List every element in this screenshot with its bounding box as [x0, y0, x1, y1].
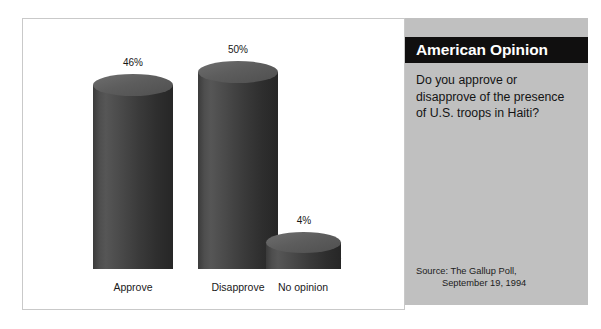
- panel-question: Do you approve or disapprove of the pres…: [416, 72, 584, 122]
- category-label-approve: Approve: [83, 281, 183, 293]
- question-line-2: disapprove of the presence: [416, 89, 584, 106]
- cylinder-top-ellipse: [93, 74, 173, 96]
- question-line-3: of U.S. troops in Haiti?: [416, 105, 584, 122]
- panel-title: American Opinion: [416, 37, 548, 63]
- panel-title-bar: American Opinion: [405, 37, 588, 63]
- question-line-1: Do you approve or: [416, 72, 584, 89]
- bar-group-approve: 46%: [93, 74, 173, 269]
- bar-value-label: 50%: [188, 44, 288, 55]
- bar-value-label: 46%: [83, 57, 183, 68]
- american-opinion-panel: American Opinion Do you approve or disap…: [405, 18, 588, 305]
- cylinder-top-ellipse: [266, 232, 341, 253]
- cylinder-approve: [93, 74, 173, 269]
- source-line-1: Source: The Gallup Poll,: [416, 265, 586, 277]
- source-line-2: September 19, 1994: [416, 277, 586, 289]
- chart-plot-area: 46% Approve 50% Disapprove 4%: [22, 18, 405, 310]
- bar-group-no-opinion: 4%: [266, 232, 341, 269]
- cylinder-body: [93, 85, 173, 269]
- category-label-no-opinion: No opinion: [253, 281, 353, 293]
- bar-value-label: 4%: [254, 215, 354, 226]
- cylinder-top-ellipse: [198, 61, 278, 83]
- chart-screenshot: 46% Approve 50% Disapprove 4%: [0, 0, 601, 329]
- panel-source: Source: The Gallup Poll, September 19, 1…: [416, 265, 586, 289]
- cylinder-no-opinion: [266, 232, 341, 269]
